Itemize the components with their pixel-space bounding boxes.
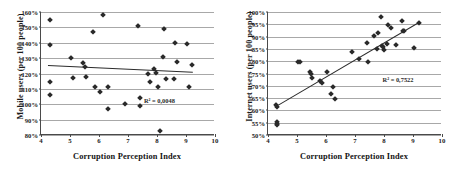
x-axis-title: Corruption Perception Index: [40, 152, 214, 161]
x-tick-mark: [413, 134, 414, 137]
y-tick-mark: [266, 98, 269, 99]
y-tick-label: 75%: [252, 70, 265, 77]
y-tick-label: 70%: [252, 82, 265, 89]
x-tick-mark: [186, 134, 187, 137]
y-tick-label: 95%: [252, 21, 265, 28]
x-tick-label: 8: [155, 137, 158, 144]
x-tick-label: 4: [266, 137, 269, 144]
y-tick-label: 90%: [25, 116, 38, 123]
x-tick-mark: [442, 134, 443, 137]
x-tick-mark: [355, 134, 356, 137]
chart-panel-internet: Internet users (per 100 people) 50%55%60…: [227, 0, 454, 175]
y-tick-label: 110%: [22, 85, 38, 92]
y-tick-mark: [266, 24, 269, 25]
x-tick-mark: [99, 134, 100, 137]
y-tick-label: 55%: [252, 119, 265, 126]
x-tick-mark: [384, 134, 385, 137]
y-tick-mark: [39, 42, 42, 43]
y-tick-label: 50%: [252, 132, 265, 139]
x-tick-label: 10: [212, 137, 219, 144]
y-tick-mark: [39, 12, 42, 13]
x-tick-label: 9: [411, 137, 414, 144]
x-tick-mark: [268, 134, 269, 137]
r-squared-label: R² = 0,0048: [144, 97, 175, 104]
x-tick-mark: [215, 134, 216, 137]
x-tick-label: 7: [126, 137, 129, 144]
x-tick-label: 5: [295, 137, 298, 144]
y-tick-mark: [266, 73, 269, 74]
y-tick-label: 160%: [22, 9, 38, 16]
x-tick-mark: [297, 134, 298, 137]
y-tick-mark: [39, 88, 42, 89]
y-tick-label: 100%: [22, 101, 38, 108]
y-tick-mark: [266, 48, 269, 49]
y-tick-mark: [39, 119, 42, 120]
y-tick-label: 140%: [22, 39, 38, 46]
y-tick-label: 85%: [252, 45, 265, 52]
y-tick-label: 80%: [25, 132, 38, 139]
y-tick-mark: [266, 85, 269, 86]
y-tick-mark: [266, 12, 269, 13]
y-tick-label: 60%: [252, 107, 265, 114]
x-tick-mark: [70, 134, 71, 137]
x-tick-label: 7: [353, 137, 356, 144]
y-tick-label: 130%: [22, 55, 38, 62]
x-tick-label: 6: [97, 137, 100, 144]
x-tick-label: 5: [68, 137, 71, 144]
y-tick-label: 65%: [252, 95, 265, 102]
y-tick-mark: [266, 110, 269, 111]
x-tick-label: 8: [382, 137, 385, 144]
y-tick-mark: [266, 122, 269, 123]
x-tick-mark: [41, 134, 42, 137]
y-tick-mark: [39, 73, 42, 74]
chart-panel-mobile: Mobile users (per 100 people) 80%90%100%…: [0, 0, 227, 175]
plot-area-mobile: 80%90%100%110%120%130%140%150%160%456789…: [40, 12, 214, 135]
y-tick-mark: [266, 61, 269, 62]
x-tick-mark: [157, 134, 158, 137]
y-tick-mark: [39, 58, 42, 59]
axis-ticks: 80%90%100%110%120%130%140%150%160%456789…: [41, 12, 214, 134]
x-tick-label: 4: [39, 137, 42, 144]
y-tick-label: 150%: [22, 24, 38, 31]
y-tick-label: 120%: [22, 70, 38, 77]
y-tick-mark: [39, 27, 42, 28]
plot-area-internet: 50%55%60%65%70%75%80%85%90%95%100%456789…: [267, 12, 441, 135]
r-squared-label: R² = 0,7522: [383, 76, 414, 83]
y-tick-label: 90%: [252, 33, 265, 40]
y-tick-label: 80%: [252, 58, 265, 65]
x-tick-mark: [128, 134, 129, 137]
figure-container: Mobile users (per 100 people) 80%90%100%…: [0, 0, 454, 175]
y-tick-label: 100%: [249, 9, 265, 16]
x-tick-mark: [326, 134, 327, 137]
x-tick-label: 6: [324, 137, 327, 144]
axis-ticks: 50%55%60%65%70%75%80%85%90%95%100%456789…: [268, 12, 441, 134]
x-tick-label: 9: [184, 137, 187, 144]
y-tick-mark: [39, 104, 42, 105]
x-tick-label: 10: [439, 137, 446, 144]
y-tick-mark: [266, 36, 269, 37]
x-axis-title: Corruption Perception Index: [267, 152, 441, 161]
